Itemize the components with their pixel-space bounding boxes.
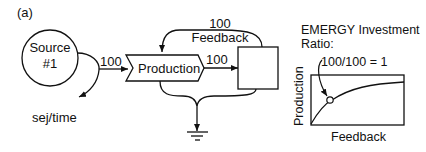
chart-title-line2: Ratio: — [301, 37, 334, 51]
source-node: Source #1 — [22, 30, 78, 86]
chart-annotation: 100/100 = 1 — [321, 55, 387, 69]
input-flow-value: 100 — [100, 54, 122, 69]
sink-flow-arrow — [77, 53, 99, 97]
production-heat-loss — [160, 81, 197, 106]
source-label: Source — [29, 40, 70, 55]
production-label: Production — [138, 61, 200, 76]
production-node: Production — [126, 55, 204, 81]
chart-ylabel: Production — [292, 66, 306, 126]
emergy-diagram: (a) Source #1 100 sej/time Production 10… — [0, 0, 426, 152]
storage-box — [238, 47, 278, 89]
source-number: #1 — [43, 56, 57, 71]
storage-heat-loss — [197, 89, 256, 106]
output-flow-value: 100 — [206, 52, 228, 67]
chart-marked-point — [327, 97, 333, 103]
panel-label: (a) — [17, 5, 33, 20]
feedback-label: Feedback — [191, 30, 249, 45]
ground-heat-sink-icon — [187, 132, 208, 140]
inset-chart: EMERGY Investment Ratio: 100/100 = 1 Pro… — [292, 23, 420, 144]
feedback-value: 100 — [209, 16, 231, 31]
chart-xlabel: Feedback — [331, 130, 387, 144]
chart-title-line1: EMERGY Investment — [301, 23, 420, 37]
sink-label: sej/time — [32, 110, 77, 125]
chart-curve — [311, 82, 404, 124]
